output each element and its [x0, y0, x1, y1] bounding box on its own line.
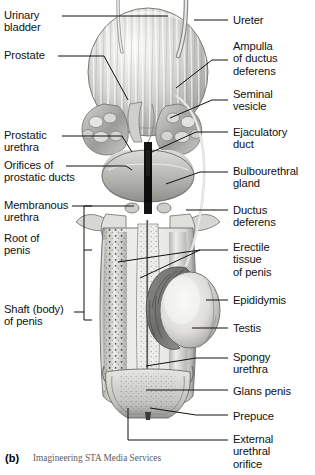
label-orifices-prostatic: Orifices of prostatic ducts [4, 159, 75, 184]
label-urinary-bladder: Urinary bladder [4, 9, 41, 34]
label-testis: Testis [233, 322, 261, 334]
label-ampulla-ductus: Ampulla of ductus deferens [233, 40, 278, 77]
label-ejaculatory-duct: Ejaculatory duct [233, 126, 287, 151]
label-external-orifice: External urethral orifice [233, 433, 273, 470]
label-ureter: Ureter [233, 14, 263, 26]
label-epididymis: Epididymis [233, 294, 286, 306]
glans-penis [103, 366, 194, 420]
label-ductus-deferens: Ductus deferens [233, 204, 276, 229]
label-root-of-penis: Root of penis [4, 232, 39, 257]
label-erectile-tissue: Erectile tissue of penis [233, 241, 271, 278]
label-glans-penis: Glans penis [233, 385, 291, 397]
label-bulbourethral-gland: Bulbourethral gland [233, 165, 298, 190]
label-prostatic-urethra: Prostatic urethra [4, 129, 47, 154]
label-prepuce: Prepuce [233, 410, 274, 422]
testis-and-epididymis [146, 267, 220, 349]
label-membranous-urethra: Membranous urethra [4, 199, 68, 224]
figure-credit: Imagineering STA Media Services [33, 453, 161, 463]
label-seminal-vesicle: Seminal vesicle [233, 88, 273, 113]
label-shaft-of-penis: Shaft (body) of penis [4, 303, 64, 328]
panel-letter: (b) [5, 452, 19, 464]
label-prostate: Prostate [4, 49, 45, 61]
label-spongy-urethra: Spongy urethra [233, 351, 270, 376]
